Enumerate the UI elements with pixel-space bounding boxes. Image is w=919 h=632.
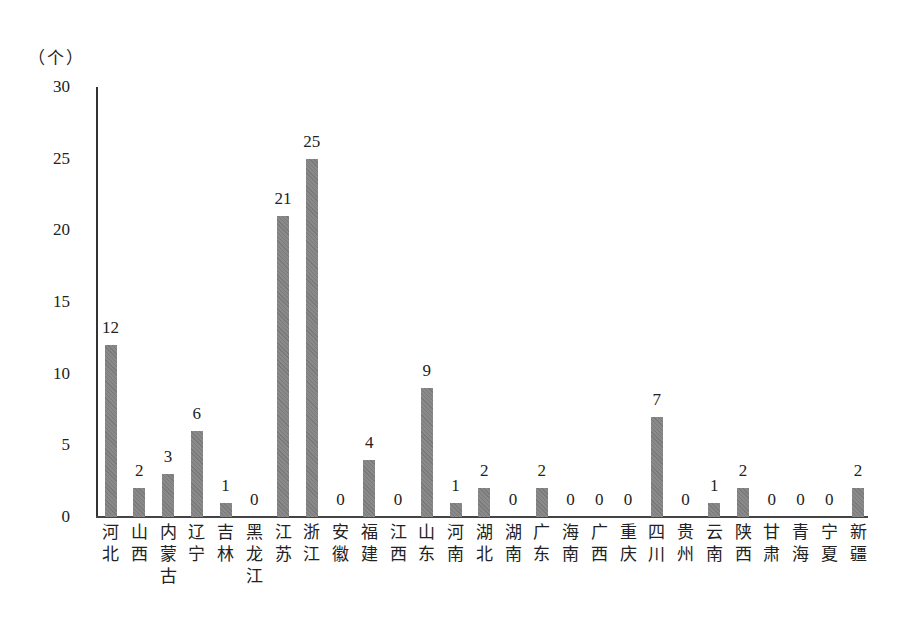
x-tick-label: 甘肃	[759, 521, 785, 565]
data-label: 7	[642, 390, 672, 410]
data-label: 12	[96, 318, 126, 338]
bar	[536, 488, 548, 517]
data-label: 0	[671, 490, 701, 510]
bar	[105, 345, 117, 517]
bar	[363, 460, 375, 517]
x-tick-label: 陕西	[730, 521, 756, 565]
data-label: 0	[326, 490, 356, 510]
data-label: 0	[556, 490, 586, 510]
bar-chart: （个） 051015202530 12河北2山西3内蒙古6辽宁1吉林0黑龙江21…	[0, 0, 919, 632]
x-tick-label: 贵州	[673, 521, 699, 565]
data-label: 25	[297, 132, 327, 152]
x-tick-label: 湖南	[500, 521, 526, 565]
data-label: 0	[814, 490, 844, 510]
y-axis-line	[96, 87, 98, 517]
x-tick-label: 安徽	[328, 521, 354, 565]
x-tick-label: 宁夏	[816, 521, 842, 565]
x-tick-label: 山东	[414, 521, 440, 565]
x-tick-label: 青海	[788, 521, 814, 565]
x-tick-label: 福建	[356, 521, 382, 565]
bar	[737, 488, 749, 517]
y-tick-label: 0	[30, 507, 70, 527]
bar	[852, 488, 864, 517]
data-label: 6	[182, 404, 212, 424]
data-label: 2	[469, 461, 499, 481]
bar	[306, 159, 318, 517]
y-tick-label: 30	[30, 77, 70, 97]
data-label: 0	[498, 490, 528, 510]
x-tick-label: 云南	[701, 521, 727, 565]
bar	[421, 388, 433, 517]
data-label: 2	[843, 461, 873, 481]
bar	[220, 503, 232, 517]
bar	[191, 431, 203, 517]
y-tick-label: 25	[30, 149, 70, 169]
bar	[450, 503, 462, 517]
data-label: 2	[124, 461, 154, 481]
data-label: 1	[441, 476, 471, 496]
x-tick-label: 重庆	[615, 521, 641, 565]
y-tick-label: 5	[30, 435, 70, 455]
x-tick-label: 黑龙江	[241, 521, 267, 587]
y-axis-unit: （个）	[28, 44, 85, 69]
data-label: 2	[527, 461, 557, 481]
y-tick-label: 10	[30, 364, 70, 384]
data-label: 0	[383, 490, 413, 510]
x-tick-label: 浙江	[299, 521, 325, 565]
x-tick-label: 四川	[644, 521, 670, 565]
x-tick-label: 内蒙古	[155, 521, 181, 587]
bar	[651, 417, 663, 517]
x-tick-label: 湖北	[471, 521, 497, 565]
data-label: 0	[239, 490, 269, 510]
x-tick-label: 河北	[98, 521, 124, 565]
data-label: 2	[728, 461, 758, 481]
bar	[162, 474, 174, 517]
data-label: 0	[786, 490, 816, 510]
bar	[133, 488, 145, 517]
x-tick-label: 广西	[586, 521, 612, 565]
bar	[478, 488, 490, 517]
data-label: 0	[584, 490, 614, 510]
data-label: 21	[268, 189, 298, 209]
data-label: 9	[412, 361, 442, 381]
data-label: 4	[354, 433, 384, 453]
x-tick-label: 新疆	[845, 521, 871, 565]
data-label: 0	[613, 490, 643, 510]
x-tick-label: 江西	[385, 521, 411, 565]
x-tick-label: 河南	[443, 521, 469, 565]
bar	[277, 216, 289, 517]
x-tick-label: 山西	[126, 521, 152, 565]
y-tick-label: 15	[30, 292, 70, 312]
x-tick-label: 广东	[529, 521, 555, 565]
data-label: 0	[757, 490, 787, 510]
x-tick-label: 吉林	[213, 521, 239, 565]
data-label: 1	[211, 476, 241, 496]
y-tick-label: 20	[30, 220, 70, 240]
x-tick-label: 江苏	[270, 521, 296, 565]
x-tick-label: 辽宁	[184, 521, 210, 565]
data-label: 1	[699, 476, 729, 496]
bar	[708, 503, 720, 517]
x-tick-label: 海南	[558, 521, 584, 565]
data-label: 3	[153, 447, 183, 467]
